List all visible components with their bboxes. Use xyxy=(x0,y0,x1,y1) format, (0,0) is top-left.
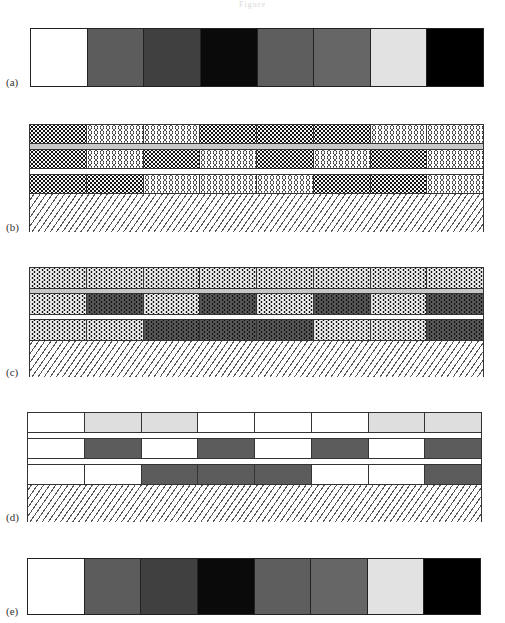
color-swatch-7 xyxy=(368,559,425,614)
layer-1 xyxy=(30,267,483,289)
layer-cell xyxy=(200,320,257,340)
color-swatch-1 xyxy=(28,559,85,614)
color-swatch-4 xyxy=(198,559,255,614)
layer-cell xyxy=(144,175,201,193)
layer-cell xyxy=(144,150,201,168)
layer-cell xyxy=(312,439,369,458)
layer-cell xyxy=(30,268,87,288)
layer-cell xyxy=(28,413,85,432)
layer-cell xyxy=(427,175,483,193)
layer-cell xyxy=(369,439,426,458)
layer-cell xyxy=(255,439,312,458)
layer-cell xyxy=(427,125,483,143)
layer-3 xyxy=(30,174,483,194)
layer-cell xyxy=(371,294,428,314)
color-swatch-2 xyxy=(88,29,145,86)
layer-cell xyxy=(87,320,144,340)
layer-cell xyxy=(198,413,255,432)
color-swatch-6 xyxy=(311,559,368,614)
layer-cell xyxy=(427,150,483,168)
layer-1 xyxy=(30,124,483,144)
color-swatch-8 xyxy=(424,559,480,614)
color-swatch-5 xyxy=(258,29,315,86)
hatched-substrate xyxy=(30,194,483,232)
layer-cell xyxy=(371,150,428,168)
layer-cell xyxy=(200,150,257,168)
panel-c-layer-stack xyxy=(29,267,484,377)
layer-cell xyxy=(30,150,87,168)
layer-cell xyxy=(200,125,257,143)
layer-cell xyxy=(142,439,199,458)
panel-e-label: (e) xyxy=(6,605,18,617)
layer-cell xyxy=(314,125,371,143)
layer-cell xyxy=(85,439,142,458)
layer-cell xyxy=(257,268,314,288)
color-swatch-8 xyxy=(427,29,483,86)
hatched-substrate xyxy=(28,485,481,522)
layer-cell xyxy=(427,294,483,314)
layer-cell xyxy=(257,320,314,340)
layer-cell xyxy=(371,125,428,143)
layer-cell xyxy=(85,413,142,432)
layer-cell xyxy=(198,439,255,458)
layer-cell xyxy=(371,175,428,193)
layer-cell xyxy=(427,268,483,288)
layer-cell xyxy=(28,439,85,458)
color-swatch-2 xyxy=(85,559,142,614)
layer-cell xyxy=(200,268,257,288)
hatched-substrate xyxy=(30,341,483,377)
layer-2 xyxy=(30,149,483,169)
color-swatch-4 xyxy=(201,29,258,86)
layer-1 xyxy=(28,412,481,433)
layer-cell xyxy=(30,175,87,193)
layer-cell xyxy=(371,320,428,340)
layer-cell xyxy=(425,465,481,484)
color-swatch-3 xyxy=(141,559,198,614)
layer-cell xyxy=(427,320,483,340)
layer-cell xyxy=(85,465,142,484)
panel-c-label: (c) xyxy=(6,366,18,378)
panel-a-color-strip xyxy=(30,28,484,87)
layer-cell xyxy=(200,175,257,193)
layer-cell xyxy=(257,125,314,143)
layer-cell xyxy=(314,268,371,288)
panel-d-layer-stack xyxy=(27,412,482,522)
layer-cell xyxy=(257,294,314,314)
color-swatch-1 xyxy=(31,29,88,86)
panel-d-label: (d) xyxy=(6,511,19,523)
layer-cell xyxy=(87,294,144,314)
layer-cell xyxy=(144,320,201,340)
layer-cell xyxy=(314,294,371,314)
panel-a-label: (a) xyxy=(6,76,18,88)
layer-cell xyxy=(144,294,201,314)
color-swatch-3 xyxy=(144,29,201,86)
layer-cell xyxy=(87,150,144,168)
layer-cell xyxy=(314,320,371,340)
color-swatch-6 xyxy=(314,29,371,86)
layer-cell xyxy=(200,294,257,314)
layer-cell xyxy=(28,465,85,484)
layer-cell xyxy=(312,465,369,484)
layer-cell xyxy=(371,268,428,288)
layer-cell xyxy=(87,175,144,193)
layer-cell xyxy=(87,125,144,143)
figure-title: Figure xyxy=(0,0,505,9)
layer-cell xyxy=(30,125,87,143)
panel-b-layer-stack xyxy=(29,124,484,232)
layer-cell xyxy=(142,413,199,432)
layer-3 xyxy=(30,319,483,341)
layer-cell xyxy=(142,465,199,484)
layer-cell xyxy=(314,175,371,193)
layer-cell xyxy=(255,465,312,484)
layer-cell xyxy=(144,125,201,143)
layer-cell xyxy=(255,413,312,432)
layer-cell xyxy=(369,465,426,484)
layer-cell xyxy=(257,150,314,168)
layer-cell xyxy=(425,413,481,432)
layer-cell xyxy=(144,268,201,288)
layer-cell xyxy=(425,439,481,458)
color-swatch-5 xyxy=(255,559,312,614)
layer-2 xyxy=(30,293,483,315)
layer-cell xyxy=(312,413,369,432)
layer-cell xyxy=(30,320,87,340)
